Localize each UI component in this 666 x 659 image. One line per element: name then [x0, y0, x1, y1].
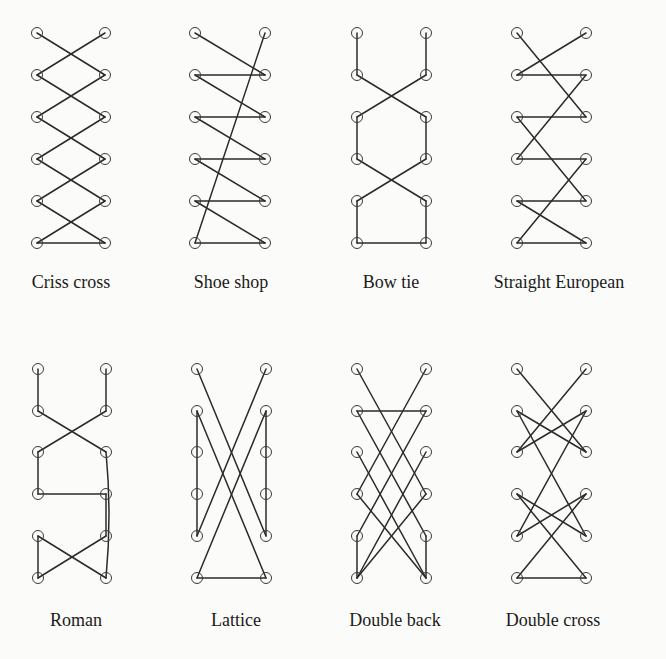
diagram-lattice [192, 364, 272, 584]
lace-segment [195, 33, 265, 75]
diagram-double-cross [512, 364, 592, 584]
label-shoe-shop: Shoe shop [194, 272, 269, 293]
lace-segment [517, 201, 586, 243]
diagram-roman [33, 364, 112, 584]
lace-segment [195, 159, 265, 201]
label-criss-cross: Criss cross [32, 272, 111, 293]
label-lattice: Lattice [211, 610, 261, 631]
lace-segment [517, 33, 586, 75]
lace-segment [195, 33, 265, 243]
lace-segment [195, 201, 265, 243]
diagram-straight-european [512, 28, 592, 249]
label-roman: Roman [50, 610, 102, 631]
label-double-cross: Double cross [506, 610, 600, 631]
diagram-shoe-shop [190, 28, 271, 249]
shoelace-diagrams-canvas [0, 0, 666, 659]
diagram-double-back [352, 364, 432, 584]
label-straight-european: Straight European [494, 272, 624, 293]
label-double-back: Double back [349, 610, 440, 631]
diagram-criss-cross [32, 28, 111, 249]
label-bow-tie: Bow tie [363, 272, 420, 293]
diagram-bow-tie [352, 28, 432, 249]
lace-segment [195, 75, 265, 117]
